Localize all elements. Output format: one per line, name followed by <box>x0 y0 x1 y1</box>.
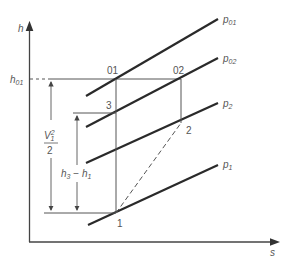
state-lines <box>44 79 181 213</box>
enthalpy-diff-dimension: h3 − h1 <box>60 116 96 210</box>
point-1-label: 1 <box>117 218 123 229</box>
point-3-label: 3 <box>106 100 112 111</box>
velocity-head-dimension: V21 2 <box>44 82 58 210</box>
isobar-p02 <box>86 58 218 127</box>
isobar-p2 <box>86 103 218 163</box>
enthalpy-diff-label: h3 − h1 <box>61 168 91 180</box>
point-02-label: 02 <box>173 65 185 76</box>
h-s-diagram: h s h01 p01 p02 p2 p1 01 02 3 2 1 V2 <box>0 0 291 267</box>
isobar-p02-label: p02 <box>222 53 236 65</box>
h01-label: h01 <box>10 74 23 86</box>
actual-process-dashed <box>116 123 181 213</box>
isobar-p01-label: p01 <box>222 14 236 26</box>
point-01-label: 01 <box>107 65 119 76</box>
isobar-p1 <box>88 165 218 225</box>
h-axis-label: h <box>18 23 24 34</box>
s-axis-label: s <box>270 247 275 258</box>
axes: h s <box>18 23 275 258</box>
velocity-head-denominator: 2 <box>47 145 53 156</box>
h01-reference: h01 <box>10 74 181 86</box>
isobars: p01 p02 p2 p1 <box>86 14 236 225</box>
point-2-label: 2 <box>186 125 192 136</box>
velocity-head-numerator: V21 <box>44 129 55 142</box>
isobar-p01 <box>86 19 218 96</box>
isobar-p2-label: p2 <box>222 98 233 110</box>
isobar-p1-label: p1 <box>222 159 233 171</box>
